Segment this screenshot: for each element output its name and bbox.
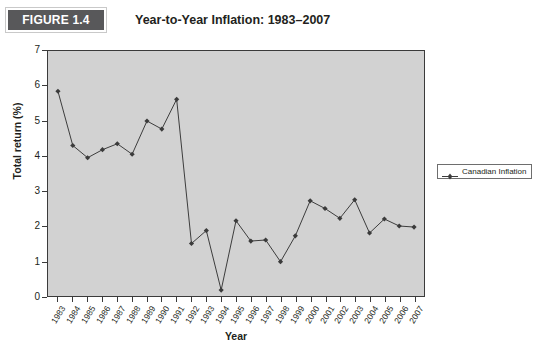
x-tick-mark <box>147 297 148 302</box>
figure-badge: FIGURE 1.4 <box>6 8 106 32</box>
x-tick-mark <box>87 297 88 302</box>
data-point-marker: 1991: 5.62 <box>174 97 179 102</box>
chart-container: Total return (%) 01234567 19831984198519… <box>0 42 545 349</box>
y-tick-label: 7 <box>14 45 40 55</box>
figure-badge-label: FIGURE 1.4 <box>22 13 89 27</box>
data-point-marker: 1994: 0.17 <box>219 287 224 292</box>
data-point-marker: 2006: 2 <box>397 223 402 228</box>
x-tick-mark <box>400 297 401 302</box>
y-tick-label: 0 <box>14 292 40 302</box>
x-tick-mark <box>340 297 341 302</box>
x-tick-mark <box>221 297 222 302</box>
x-axis-title: Year <box>47 330 425 342</box>
x-tick-mark <box>191 297 192 302</box>
data-point-marker: 1983: 5.85 <box>55 89 60 94</box>
data-point-marker: 2001: 2.5 <box>322 206 327 211</box>
x-tick-mark <box>236 297 237 302</box>
legend-marker-icon <box>441 167 459 176</box>
y-tick-label: 1 <box>14 257 40 267</box>
data-point-marker: 2007: 1.97 <box>411 224 416 229</box>
x-tick-mark <box>266 297 267 302</box>
x-tick-mark <box>296 297 297 302</box>
x-tick-mark <box>117 297 118 302</box>
y-tick-mark <box>42 297 47 298</box>
figure-header: FIGURE 1.4 Year-to-Year Inflation: 1983–… <box>0 0 545 42</box>
x-tick-mark <box>251 297 252 302</box>
x-tick-mark <box>281 297 282 302</box>
x-tick-mark <box>206 297 207 302</box>
y-tick-label: 5 <box>14 116 40 126</box>
x-tick-mark <box>385 297 386 302</box>
y-tick-label: 6 <box>14 80 40 90</box>
series-line-canadian-inflation <box>58 91 414 290</box>
x-tick-mark <box>176 297 177 302</box>
y-tick-label: 3 <box>14 186 40 196</box>
legend-label-canadian-inflation: Canadian Inflation <box>462 167 527 176</box>
x-tick-mark <box>370 297 371 302</box>
page-title: Year-to-Year Inflation: 1983–2007 <box>135 13 330 27</box>
plot-area: 1983: 5.851984: 4.31985: 3.951986: 4.181… <box>47 50 425 297</box>
y-tick-label: 4 <box>14 151 40 161</box>
x-tick-mark <box>102 297 103 302</box>
x-tick-mark <box>72 297 73 302</box>
x-tick-mark <box>326 297 327 302</box>
data-point-marker: 1986: 4.18 <box>100 147 105 152</box>
data-point-marker: 1989: 5 <box>144 118 149 123</box>
y-tick-label: 2 <box>14 221 40 231</box>
x-tick-mark <box>161 297 162 302</box>
data-point-marker: 1990: 4.77 <box>159 126 164 131</box>
data-point-marker: 2000: 2.72 <box>308 198 313 203</box>
series-plot: 1983: 5.851984: 4.31985: 3.951986: 4.181… <box>48 51 424 296</box>
x-tick-mark <box>415 297 416 302</box>
x-tick-mark <box>355 297 356 302</box>
x-tick-mark <box>311 297 312 302</box>
x-tick-mark <box>132 297 133 302</box>
chart-legend: Canadian Inflation <box>437 164 532 179</box>
data-point-marker: 1999: 1.72 <box>293 233 298 238</box>
x-tick-mark <box>57 297 58 302</box>
